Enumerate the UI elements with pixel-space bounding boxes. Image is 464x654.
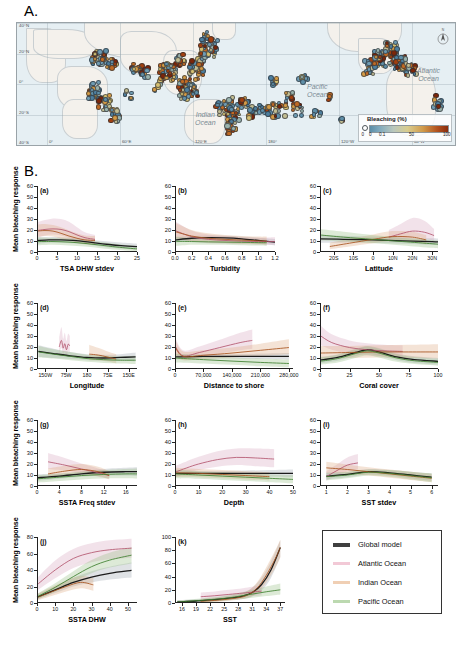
panel-b-letter: B.: [24, 162, 38, 179]
y-axis-title: Mean bleaching response: [11, 400, 20, 486]
y-axis-tick-label: 0: [30, 600, 33, 606]
y-axis-title: Mean bleaching response: [11, 517, 20, 603]
plot-panel-a: 01020304050600510152025(a): [37, 186, 137, 252]
y-axis-tick-label: 40: [165, 322, 171, 328]
y-axis-tick: [172, 197, 175, 198]
y-axis-tick-label: 50: [165, 194, 171, 200]
bleaching-site-point: [299, 113, 304, 118]
y-axis-tick: [317, 325, 320, 326]
y-axis-tick: [172, 464, 175, 465]
bleaching-site-point: [274, 114, 278, 118]
bleaching-site-point: [179, 97, 183, 101]
y-axis-tick-label: 40: [310, 205, 316, 211]
x-axis-title-k: SST: [175, 615, 285, 624]
bleaching-site-point: [246, 115, 252, 121]
bleaching-site-point: [247, 107, 253, 113]
x-axis-tick-label: 280,000: [279, 372, 298, 378]
y-axis-tick: [172, 186, 175, 187]
colorbar-tick-label: 0: [369, 132, 372, 137]
y-axis-tick-label: 80: [165, 547, 171, 553]
y-axis-tick-label: 30: [165, 333, 171, 339]
y-axis-tick-label: 10: [310, 355, 316, 361]
y-axis-tick: [34, 303, 37, 304]
bleaching-site-point: [282, 113, 288, 119]
y-axis-tick: [172, 358, 175, 359]
y-axis-tick-label: 50: [27, 428, 33, 434]
plot-curves-j: [37, 537, 137, 603]
bleaching-site-point: [180, 79, 185, 84]
legend-label: Atlantic Ocean: [358, 559, 406, 568]
subpanel-letter-c: (c): [323, 187, 332, 194]
x-axis-tick-label: 0.8: [238, 255, 245, 261]
map-lon-label: 0°: [49, 139, 53, 144]
bleaching-site-point: [378, 55, 382, 59]
panel-a-letter: A.: [24, 2, 38, 19]
y-axis-line: [175, 303, 176, 369]
bleaching-site-point: [97, 49, 103, 55]
y-axis-tick: [34, 197, 37, 198]
map-lon-label: 120°W: [341, 139, 354, 144]
x-axis-tick-label: 31: [249, 606, 255, 612]
y-axis-tick-label: 50: [27, 311, 33, 317]
y-axis-tick-label: 60: [310, 300, 316, 306]
x-axis-tick-label: 37: [277, 606, 283, 612]
y-axis-tick-label: 10: [310, 238, 316, 244]
y-axis-tick-label: 20: [27, 344, 33, 350]
bleaching-colorbar: Bleaching (%) 0 00.150100: [358, 114, 452, 142]
y-axis-tick-label: 50: [310, 311, 316, 317]
x-axis-line: [37, 485, 137, 486]
y-axis-tick: [317, 347, 320, 348]
colorbar-tick-label: 0.1: [379, 132, 385, 137]
x-axis-tick-label: 16: [179, 606, 185, 612]
subpanel-letter-i: (i): [323, 421, 330, 428]
x-axis-tick-label: 30: [243, 489, 249, 495]
bleaching-site-point: [202, 32, 206, 36]
x-axis-tick-label: 25: [134, 255, 140, 261]
y-axis-tick-label: 40: [165, 574, 171, 580]
bleaching-site-point: [257, 103, 261, 107]
y-axis-tick-label: 10: [27, 355, 33, 361]
map-lon-label: 120°E: [195, 139, 207, 144]
colorbar-zero-marker: [362, 125, 368, 131]
y-axis-tick-label: 60: [27, 300, 33, 306]
x-axis-line: [37, 602, 137, 603]
x-axis-tick-label: 20N: [408, 255, 418, 261]
subpanel-letter-b: (b): [178, 187, 187, 194]
y-axis-tick: [172, 208, 175, 209]
y-axis-tick: [172, 241, 175, 242]
x-axis-tick-label: 0: [36, 606, 39, 612]
map-latitude-gridline: [17, 23, 455, 24]
bleaching-site-point: [268, 75, 274, 81]
y-axis-tick-label: 0: [30, 483, 33, 489]
x-axis-tick-label: 1.0: [255, 255, 262, 261]
y-axis-tick-label: 10: [27, 238, 33, 244]
map-lat-label: 40°S: [19, 140, 29, 145]
subpanel-letter-k: (k): [178, 538, 187, 545]
x-axis-tick-label: 0: [319, 372, 322, 378]
y-axis-tick-label: 60: [165, 560, 171, 566]
y-axis-tick: [172, 431, 175, 432]
x-axis-tick-label: 16: [123, 489, 129, 495]
y-axis-tick: [317, 442, 320, 443]
x-axis-tick-label: 3: [367, 489, 370, 495]
map-lat-label: 20°S: [19, 110, 29, 115]
y-axis-tick: [34, 241, 37, 242]
x-axis-tick-label: 10N: [388, 255, 398, 261]
ocean-name-label: PacificOcean: [307, 83, 328, 99]
x-axis-tick-label: 30: [89, 606, 95, 612]
map-longitude-gridline: [266, 23, 267, 145]
x-axis-tick-label: 40: [266, 489, 272, 495]
x-axis-tick-label: 75W: [61, 372, 72, 378]
y-axis-tick-label: 60: [165, 300, 171, 306]
bleaching-site-point: [109, 65, 115, 71]
bleaching-site-point: [198, 43, 202, 47]
bleaching-site-point: [274, 76, 279, 81]
y-axis-tick: [317, 420, 320, 421]
y-axis-tick: [34, 208, 37, 209]
subpanel-letter-a: (a): [40, 187, 49, 194]
x-axis-tick-label: 22: [207, 606, 213, 612]
x-axis-tick-label: 0.6: [221, 255, 228, 261]
legend-item-global-model: Global model: [333, 540, 402, 549]
y-axis-tick-label: 100: [162, 534, 171, 540]
x-axis-tick-label: 50: [376, 372, 382, 378]
